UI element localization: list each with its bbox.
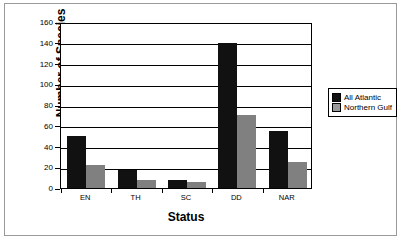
x-axis-label-sc: SC	[161, 193, 211, 202]
x-axis-label-nar: NAR	[262, 193, 312, 202]
y-axis-tick-label: 20	[27, 164, 53, 172]
chart-frame: Number of Species 020406080100120140160 …	[4, 3, 397, 236]
gridline	[61, 86, 311, 87]
bar-th-all-atlantic	[118, 170, 137, 188]
y-axis-tick-label: 0	[27, 185, 53, 193]
y-axis-tick	[55, 64, 60, 65]
y-axis-tick	[55, 189, 60, 190]
y-axis-tick-label: 60	[27, 123, 53, 131]
y-axis-tick-label: 100	[27, 81, 53, 89]
y-axis-tick	[55, 147, 60, 148]
bar-sc-northern-gulf	[187, 182, 206, 188]
bar-nar-northern-gulf	[288, 162, 307, 188]
gray-square-icon	[332, 103, 341, 112]
chart-legend: All AtlanticNorthern Gulf	[328, 88, 397, 117]
y-axis-tick	[55, 85, 60, 86]
gridline	[61, 65, 311, 66]
black-square-icon	[332, 93, 341, 102]
plot-area	[60, 23, 312, 189]
bar-sc-all-atlantic	[168, 180, 187, 188]
y-axis-tick	[55, 168, 60, 169]
bar-en-all-atlantic	[67, 136, 86, 188]
y-axis-tick-label: 80	[27, 102, 53, 110]
bar-nar-all-atlantic	[269, 131, 288, 188]
y-axis-tick	[55, 23, 60, 24]
y-axis-tick-label: 140	[27, 40, 53, 48]
y-axis-tick-label: 120	[27, 61, 53, 69]
y-axis-tick	[55, 43, 60, 44]
bar-dd-northern-gulf	[237, 115, 256, 188]
legend-item-label: Northern Gulf	[344, 103, 392, 112]
gridline	[61, 44, 311, 45]
y-axis-tick-label: 160	[27, 19, 53, 27]
y-axis-tick	[55, 106, 60, 107]
bar-th-northern-gulf	[137, 180, 156, 188]
x-axis-label-th: TH	[110, 193, 160, 202]
gridline	[61, 127, 311, 128]
gridline	[61, 107, 311, 108]
bar-en-northern-gulf	[86, 165, 105, 188]
legend-item-label: All Atlantic	[344, 93, 381, 102]
legend-item-all-atlantic: All Atlantic	[332, 93, 392, 102]
legend-item-northern-gulf: Northern Gulf	[332, 103, 392, 112]
x-axis-label-en: EN	[60, 193, 110, 202]
y-axis-tick-label: 40	[27, 144, 53, 152]
bar-dd-all-atlantic	[218, 43, 237, 188]
y-axis-tick	[55, 126, 60, 127]
x-axis-title: Status	[60, 210, 312, 224]
x-axis-label-dd: DD	[211, 193, 261, 202]
